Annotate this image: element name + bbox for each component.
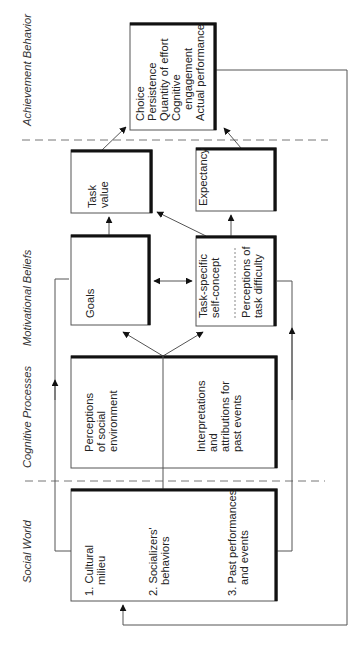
selfconcept-to-taskvalue-arrow [157, 212, 206, 236]
cultural-milieu-text-2: milieu [95, 556, 107, 585]
past-performances-text-2: and events [238, 530, 250, 585]
self-concept-box: Task-specific self-concept Perceptions o… [196, 236, 276, 326]
achievement-persistence-text: Persistence [146, 63, 158, 121]
goals-box: Goals [71, 235, 150, 325]
social-env-text-1: Perceptions [83, 393, 95, 452]
expectancy-box: Expectancy [196, 148, 276, 211]
self-concept-text-1: Task-specific [197, 254, 209, 318]
task-value-text-2: value [98, 181, 110, 208]
achievement-performance-text: Actual performance [194, 24, 206, 121]
stage-label-social-world: Social World [21, 519, 33, 583]
social-env-text-3: environment [107, 390, 119, 452]
interpretations-text-1: Interpretations [195, 380, 207, 452]
expectancy-to-achievement-arrow [224, 128, 241, 148]
stage-label-cognitive-processes: Cognitive Processes [21, 366, 33, 468]
interpretations-text-2: and [207, 433, 219, 452]
past-performances-text-1: 3. Past performances [226, 489, 238, 596]
achievement-engagement-text: engagement [182, 47, 194, 110]
taskvalue-to-achievement-arrow [102, 127, 126, 150]
achievement-effort-text: Quantity of effort [158, 38, 170, 121]
task-value-text-1: Task [86, 185, 98, 208]
stage-label-achievement-behavior: Achievement Behavior [21, 13, 33, 127]
cognitive-processes-box: Perceptions of social environment Interp… [71, 356, 277, 468]
achievement-cognitive-text: Cognitive [170, 74, 182, 121]
interpretations-text-4: past events [231, 394, 243, 452]
cultural-to-goals-line [55, 279, 71, 551]
socializers-text-1: 2. Socializers' [147, 527, 159, 596]
stage-label-motivational-beliefs: Motivational Beliefs [21, 249, 33, 346]
social-env-text-2: of social [95, 411, 107, 452]
self-concept-text-2: self-concept [209, 257, 221, 318]
expectancy-text: Expectancy [197, 148, 209, 206]
cognitive-to-goals-arrow [123, 332, 163, 356]
achievement-choice-text: Choice [134, 86, 146, 121]
socializers-text-2: behaviors [159, 536, 171, 585]
goals-text: Goals [84, 288, 96, 318]
cognitive-to-selfconcept-arrow [163, 332, 203, 356]
social-world-box: 1. Cultural milieu 2. Socializers' behav… [71, 489, 277, 601]
task-value-box: Task value [71, 150, 152, 213]
interpretations-text-3: attributions for [219, 381, 231, 452]
task-difficulty-text-1: Perceptions of [240, 246, 252, 318]
achievement-behavior-box: Choice Persistence Quantity of effort Co… [130, 23, 216, 130]
expectancy-value-model-diagram: Achievement Behavior Motivational Belief… [0, 0, 364, 646]
past-to-selfconcept-line [277, 281, 292, 551]
cultural-milieu-text-1: 1. Cultural [83, 545, 95, 596]
task-difficulty-text-2: task difficulty [252, 254, 264, 318]
